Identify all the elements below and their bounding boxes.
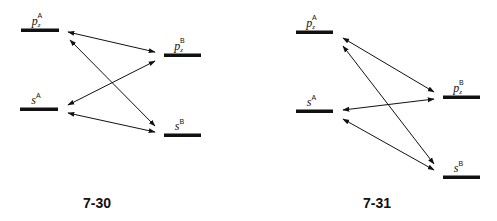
level-label-s-B: sB — [175, 118, 185, 133]
interaction-arrow-s-A-pz-B — [343, 99, 434, 110]
energy-level-s-B — [164, 134, 201, 138]
figure-caption: 7-31 — [363, 195, 391, 211]
figure-7-30: pzAsApzBsB7-30 — [20, 12, 201, 211]
level-label-pz-B: pzB — [452, 79, 464, 96]
level-label-s-A: sA — [31, 92, 41, 107]
energy-level-s-A — [296, 110, 333, 114]
energy-level-s-A — [20, 108, 58, 112]
interaction-arrow-pz-A-pz-B — [343, 38, 434, 92]
energy-level-pz-B — [443, 96, 480, 100]
level-label-pz-B: pzB — [173, 37, 185, 54]
level-label-pz-A: pzA — [305, 14, 317, 31]
figure-7-31: pzAsApzBsB7-31 — [296, 14, 480, 211]
level-label-s-B: sB — [454, 160, 464, 175]
level-label-s-A: sA — [307, 94, 317, 109]
energy-level-pz-A — [296, 31, 333, 35]
interaction-arrow-s-A-s-B — [343, 119, 434, 170]
energy-level-s-B — [443, 176, 480, 180]
interaction-arrow-pz-A-pz-B — [68, 32, 155, 52]
energy-level-pz-B — [164, 54, 201, 58]
energy-level-pz-A — [21, 29, 59, 33]
interaction-arrow-s-A-pz-B — [68, 61, 155, 105]
orbital-interaction-diagrams: pzAsApzBsB7-30 pzAsApzBsB7-31 — [0, 0, 497, 221]
interaction-arrow-s-A-s-B — [68, 113, 155, 132]
level-label-pz-A: pzA — [31, 12, 43, 29]
figure-caption: 7-30 — [83, 195, 111, 211]
